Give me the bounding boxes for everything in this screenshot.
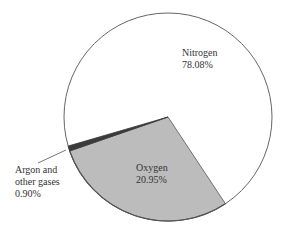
label-oxygen-value: 20.95% <box>136 174 168 186</box>
label-argon-name-line1: Argon and <box>15 164 60 176</box>
label-nitrogen-value: 78.08% <box>182 59 218 71</box>
label-argon-name-line2: other gases <box>15 176 60 188</box>
argon-leader-line <box>38 150 66 163</box>
label-oxygen-name: Oxygen <box>136 162 168 174</box>
label-argon: Argon and other gases 0.90% <box>15 164 60 200</box>
label-nitrogen: Nitrogen 78.08% <box>182 47 218 71</box>
label-argon-value: 0.90% <box>15 188 60 200</box>
label-nitrogen-name: Nitrogen <box>182 47 218 59</box>
label-oxygen: Oxygen 20.95% <box>136 162 168 186</box>
